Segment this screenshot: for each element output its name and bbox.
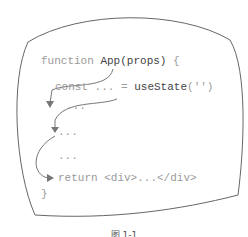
diagram-canvas xyxy=(0,0,248,237)
flow-arrow-3 xyxy=(36,136,55,178)
code-line-function: function App(props) { xyxy=(41,55,180,67)
code-line-close-brace: } xyxy=(41,188,48,200)
flow-arrow-2 xyxy=(55,99,117,128)
figure-caption: 图 1-1 xyxy=(0,228,248,237)
blob-outline xyxy=(17,18,243,217)
code-line-ellipsis-1: ... xyxy=(66,100,86,112)
arrowhead-icon xyxy=(47,174,54,182)
code-line-usestate: const ... = useState('') xyxy=(55,81,213,93)
arrowhead-icon xyxy=(46,101,54,108)
code-line-return: return <div>...</div> xyxy=(58,172,197,184)
code-line-ellipsis-2: ... xyxy=(58,126,78,138)
code-line-ellipsis-3: ... xyxy=(58,150,78,162)
